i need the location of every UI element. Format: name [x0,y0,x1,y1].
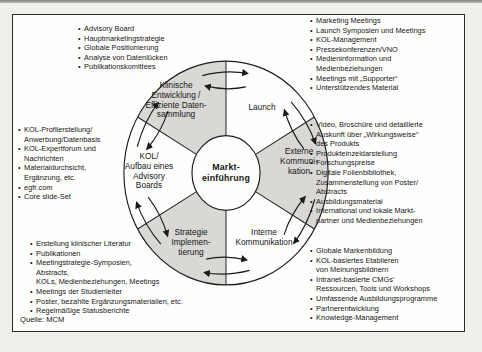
list-item: •Meetings mit „Supporter“ [310,74,462,84]
list-item: •Video, Broschüre und detaillierte Ausku… [310,120,462,149]
source-note: Quelle: MCM [20,315,64,324]
bullet-icon: • [78,62,81,72]
list-item: •Umfassende Ausbildungsprogramme [310,294,466,304]
list-item: •Globale Markenbildung [310,246,466,256]
list-item: •Digitale Folienbibliothek, Zusammenstel… [310,168,462,197]
list-item: •KOL-Expertforum und Nachrichten [18,144,122,163]
bullet-icon: • [78,24,81,34]
bullet-icon: • [310,74,313,84]
bullet-icon: • [30,239,33,249]
figure-canvas: Klinische Entwicklung / Effiziente Daten… [0,0,482,352]
list-top-right: •Marketing Meetings •Launch Symposien un… [310,16,462,93]
list-bottom-left: •Erstellung klinischer Literatur •Publik… [30,239,230,316]
list-item: •Marketing Meetings [310,16,462,26]
bullet-icon: • [78,53,81,63]
list-item: •Intranet-basierte CMGs' Ressourcen, Too… [310,275,466,294]
list-item: •Materialdurchsicht, Ergänzung, etc. [18,163,122,182]
list-item: •Publikationskomittees [78,62,218,72]
bullet-icon: • [310,45,313,55]
bullet-icon: • [30,258,33,268]
segment-label-kol-advisory-boards: KOL/ Aufbau eines Advisory Boards [125,152,173,191]
list-item: •KOL-basiertes Etablieren von Meinungsbi… [310,256,466,275]
list-item: •Meetings der Studienleiter [30,287,230,297]
list-item: •Partnerentwicklung [310,304,466,314]
list-bottom-right: •Globale Markenbildung •KOL-basiertes Et… [310,246,466,323]
bullet-icon: • [310,275,313,285]
list-item: •KOL-Management [310,35,462,45]
list-item: •Erstellung klinischer Literatur [30,239,230,249]
bullet-icon: • [78,34,81,44]
list-item: •International und lokale Markt- partner… [310,206,462,225]
list-item: •Unterstützendes Material [310,83,462,93]
list-item: •Pressekonferenzen/VNO [310,45,462,55]
list-item: •KOL-Profilerstellung/ Anwerbung/Datenba… [18,125,122,144]
bullet-icon: • [310,158,313,168]
segment-label-klinische-entwicklung: Klinische Entwicklung / Effiziente Daten… [145,81,206,120]
list-item: •Meetingstrategie-Symposien, Abstracts, … [30,258,230,287]
bullet-icon: • [30,287,33,297]
list-right: •Video, Broschüre und detaillierte Ausku… [310,120,462,226]
list-item: •Advisory Board [78,24,218,34]
list-top-left: •Advisory Board •Hauptmarketingstrategie… [78,24,218,72]
list-item: •Core slide-Set [18,192,122,202]
list-item: •Publikationen [30,249,230,259]
bullet-icon: • [18,125,21,135]
list-item: •Ausbildungsmaterial [310,197,462,207]
bullet-icon: • [310,26,313,36]
wheel-center-label: Markt- einführung [202,162,250,183]
list-item: •Hauptmarketingstrategie [78,34,218,44]
bullet-icon: • [310,246,313,256]
list-item: •Launch Symposien und Meetings [310,26,462,36]
bullet-icon: • [18,183,21,193]
list-item: •Forschungspreise [310,158,462,168]
bullet-icon: • [310,256,313,266]
bullet-icon: • [310,149,313,159]
list-left: •KOL-Profilerstellung/ Anwerbung/Datenba… [18,125,122,202]
list-item: •Knowledge-Management [310,313,466,323]
list-item: •Analyse von Datenlücken [78,53,218,63]
bullet-icon: • [310,304,313,314]
bullet-icon: • [310,197,313,207]
bullet-icon: • [310,35,313,45]
segment-label-interne-kommunikation: Interne Kommunikation [235,228,292,248]
bullet-icon: • [310,168,313,178]
bullet-icon: • [310,206,313,216]
bullet-icon: • [30,249,33,259]
list-item: •Medieninformation und Medienbeziehungen [310,54,462,73]
bullet-icon: • [18,144,21,154]
bullet-icon: • [18,192,21,202]
bullet-icon: • [310,120,313,130]
bullet-icon: • [30,297,33,307]
bullet-icon: • [18,163,21,173]
bullet-icon: • [310,83,313,93]
bullet-icon: • [310,313,313,323]
segment-label-launch: Launch [248,103,275,113]
bullet-icon: • [78,43,81,53]
list-item: •Poster, bezahlte Ergänzungsmaterialien,… [30,297,230,307]
list-item: •Produkteinzeldarstellung [310,149,462,159]
bullet-icon: • [310,294,313,304]
list-item: •egfr.com [18,183,122,193]
bullet-icon: • [310,54,313,64]
scan-edge-strip [0,0,482,3]
list-item: •Globale Positionierung [78,43,218,53]
bullet-icon: • [310,16,313,26]
